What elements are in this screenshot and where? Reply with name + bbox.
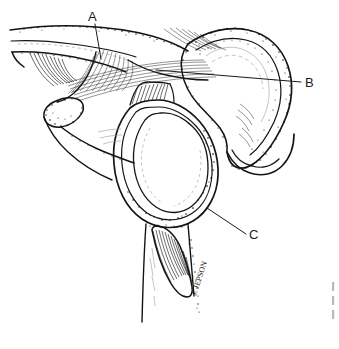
anatomical-figure: A B C J. JEPSON [0,0,339,349]
label-a: A [88,9,97,24]
figure-background [0,0,339,349]
anatomy-illustration-canvas: A B C J. JEPSON [0,0,339,349]
label-c: C [249,227,259,242]
label-b: B [305,75,314,90]
right-margin-marks [332,282,334,319]
